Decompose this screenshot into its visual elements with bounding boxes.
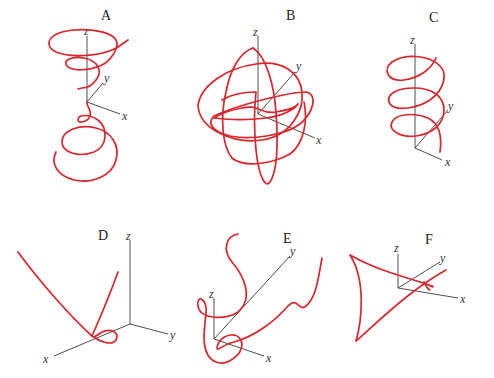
panel-a: A z y x	[49, 8, 128, 181]
x-axis-label: x	[265, 351, 272, 365]
panel-label-d: D	[98, 228, 108, 243]
x-axis	[54, 324, 130, 356]
panel-b: B z y x	[198, 8, 322, 184]
y-axis-label: y	[169, 328, 176, 342]
y-axis-label: y	[439, 251, 446, 265]
panel-e: E z y x	[198, 231, 322, 365]
z-axis-label: z	[125, 229, 131, 243]
z-axis-label: z	[83, 24, 89, 38]
panel-label-a: A	[101, 8, 112, 23]
panel-label-c: C	[429, 10, 438, 25]
curve-e	[198, 234, 322, 363]
x-axis-label: x	[444, 155, 451, 169]
x-axis-label: x	[42, 352, 49, 366]
y-axis	[130, 324, 168, 334]
z-axis-label: z	[208, 287, 214, 301]
x-axis-label: x	[315, 133, 322, 147]
x-axis	[415, 148, 442, 160]
panel-label-f: F	[425, 232, 433, 247]
panel-d: D z y x	[18, 228, 176, 366]
y-axis-label: y	[103, 71, 110, 85]
curve-d	[18, 252, 118, 343]
curve-b-left-loop	[223, 48, 306, 164]
y-axis-label: y	[295, 59, 302, 73]
panel-f: F z y x	[350, 232, 466, 341]
y-axis-label: y	[289, 244, 296, 258]
z-axis-label: z	[409, 33, 415, 47]
curve-c-helix	[387, 56, 444, 152]
panel-c: C z y x	[387, 10, 454, 169]
y-axis	[398, 262, 440, 288]
curve-a-upper	[49, 30, 128, 89]
x-axis-label: x	[459, 292, 466, 306]
curve-a-lower	[54, 102, 117, 181]
y-axis	[214, 256, 290, 339]
z-axis-label: z	[393, 241, 399, 255]
y-axis-label: y	[447, 99, 454, 113]
x-axis	[87, 102, 120, 114]
z-axis-label: z	[252, 25, 258, 39]
curve-b-inner-loop	[214, 104, 298, 120]
curves-figure: A z y x B z y x C z y	[0, 0, 494, 378]
panel-label-b: B	[286, 8, 295, 23]
x-axis-label: x	[121, 109, 128, 123]
